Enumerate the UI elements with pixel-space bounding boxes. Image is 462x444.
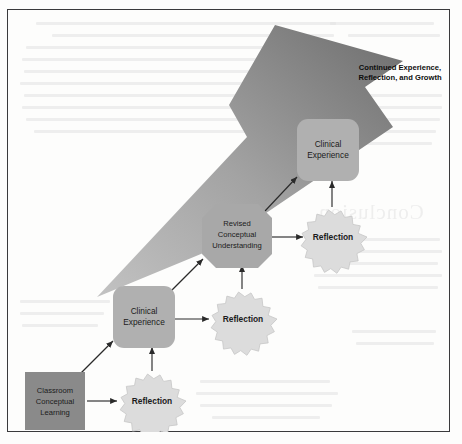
growth-arrow-caption-line-1: Continued Experience, bbox=[359, 63, 441, 72]
node-revised-conceptual-understanding[interactable]: Revised Conceptual Understanding bbox=[202, 204, 272, 268]
clinical-experience-1-label-line-1: Clinical bbox=[131, 306, 158, 316]
connector-classroom-to-clinical1 bbox=[80, 341, 113, 374]
understanding-label-line-3: Understanding bbox=[212, 241, 261, 250]
node-classroom-conceptual-learning[interactable]: Classroom Conceptual Learning bbox=[25, 372, 85, 430]
node-clinical-experience-1[interactable]: Clinical Experience bbox=[113, 286, 175, 348]
understanding-label-line-1: Revised bbox=[223, 219, 250, 228]
figure-page: Conclusion Cont bbox=[0, 0, 462, 444]
growth-arrow-caption-line-2: Reflection, and Growth bbox=[358, 73, 441, 82]
classroom-label-line-3: Learning bbox=[40, 408, 70, 417]
classroom-label-line-2: Conceptual bbox=[36, 397, 75, 406]
node-reflection-2[interactable]: Reflection bbox=[211, 292, 277, 355]
reflection-3-label: Reflection bbox=[313, 232, 354, 242]
cycle-diagram: Continued Experience, Reflection, and Gr… bbox=[7, 9, 450, 432]
node-reflection-3[interactable]: Reflection bbox=[301, 210, 367, 273]
node-clinical-experience-2[interactable]: Clinical Experience bbox=[297, 119, 359, 181]
reflection-2-label: Reflection bbox=[223, 314, 264, 324]
clinical-experience-2-label-line-2: Experience bbox=[307, 150, 349, 160]
clinical-experience-1-label-line-2: Experience bbox=[123, 317, 165, 327]
classroom-label-line-1: Classroom bbox=[37, 386, 73, 395]
understanding-label-line-2: Conceptual bbox=[218, 230, 257, 239]
clinical-experience-2-label-line-1: Clinical bbox=[315, 139, 342, 149]
node-reflection-1[interactable]: Reflection bbox=[120, 374, 186, 432]
reflection-1-label: Reflection bbox=[132, 396, 173, 406]
